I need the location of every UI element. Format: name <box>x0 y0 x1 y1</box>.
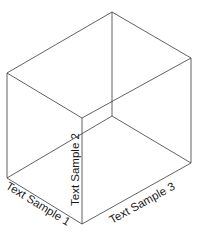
axis-label-1: Text Sample 1 <box>4 179 72 227</box>
edge-top-front-left <box>7 73 82 118</box>
edge-top-right-front <box>82 58 191 118</box>
axis-label-2: Text Sample 2 <box>69 133 81 206</box>
edge-bottom-front-right <box>82 163 191 224</box>
axis-label-3: Text Sample 3 <box>107 180 177 226</box>
edge-bottom-back-right <box>112 116 191 163</box>
edge-top-back-right <box>112 12 191 58</box>
edge-bottom-left-back <box>7 116 112 178</box>
axis-labels: Text Sample 1 Text Sample 2 Text Sample … <box>4 133 177 228</box>
box-diagram: Text Sample 1 Text Sample 2 Text Sample … <box>0 0 197 235</box>
edge-top-left-back <box>7 12 112 73</box>
